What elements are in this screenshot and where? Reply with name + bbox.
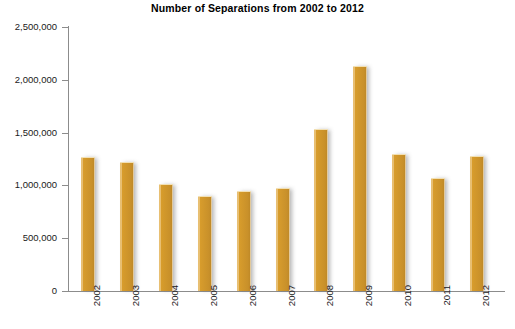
y-axis-tick-label: 1,000,000 [0, 180, 57, 190]
bar-2004 [159, 184, 173, 291]
x-axis-label-2009: 2009 [364, 285, 374, 325]
bar-2012 [470, 156, 484, 291]
bar-2003 [120, 162, 134, 291]
x-axis-label-2008: 2008 [325, 285, 335, 325]
bar-2007 [276, 188, 290, 291]
bar-2006 [237, 191, 251, 291]
bar-chart: Number of Separations from 2002 to 2012 … [0, 0, 515, 329]
x-axis-label-2012: 2012 [481, 285, 491, 325]
y-axis-tick-label: 0 [0, 286, 57, 296]
x-axis-label-2006: 2006 [248, 285, 258, 325]
bar-2010 [392, 154, 406, 291]
y-axis-tick-label: 500,000 [0, 233, 57, 243]
x-axis-label-2011: 2011 [442, 285, 452, 325]
x-axis-label-2003: 2003 [131, 285, 141, 325]
plot-area [68, 27, 505, 291]
bar-2008 [314, 129, 328, 291]
bar-2005 [198, 196, 212, 291]
y-axis-tick [62, 291, 69, 292]
x-axis-label-2005: 2005 [209, 285, 219, 325]
x-axis-label-2002: 2002 [92, 285, 102, 325]
bar-2009 [353, 66, 367, 291]
bar-2011 [431, 178, 445, 291]
y-axis-tick-label: 2,000,000 [0, 75, 57, 85]
bar-2002 [81, 157, 95, 291]
x-axis-label-2007: 2007 [287, 285, 297, 325]
x-axis-label-2004: 2004 [170, 285, 180, 325]
x-axis-label-2010: 2010 [403, 285, 413, 325]
y-axis-tick-label: 1,500,000 [0, 128, 57, 138]
chart-title: Number of Separations from 2002 to 2012 [0, 2, 515, 14]
y-axis-tick-label: 2,500,000 [0, 22, 57, 32]
